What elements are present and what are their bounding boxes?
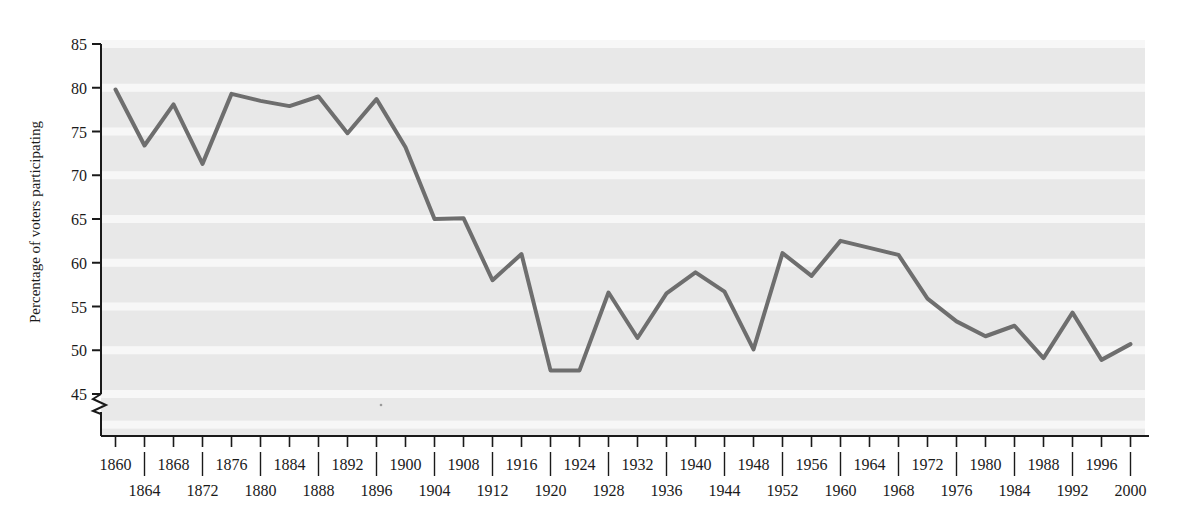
x-tick-label: 1960 — [825, 482, 857, 499]
y-axis-title: Percentage of voters participating — [27, 121, 43, 324]
chart-canvas: 455055606570758085 186018641868187218761… — [0, 0, 1182, 524]
x-tick-label: 1984 — [999, 482, 1031, 499]
gridline-band — [101, 215, 1145, 223]
gridline-band — [101, 303, 1145, 311]
x-tick-label: 1952 — [767, 482, 799, 499]
y-tick-label: 45 — [71, 386, 87, 403]
y-tick-label: 50 — [71, 342, 87, 359]
x-tick-label: 1944 — [709, 482, 741, 499]
x-tick-label: 1980 — [970, 456, 1002, 473]
x-tick-label: 1900 — [390, 456, 422, 473]
x-tick-label: 1892 — [332, 456, 364, 473]
gridline-band — [101, 346, 1145, 354]
gridline-band — [101, 84, 1145, 92]
gridline-band — [101, 421, 1145, 429]
x-tick-label: 1868 — [158, 456, 190, 473]
voter-turnout-line-chart: 455055606570758085 186018641868187218761… — [0, 0, 1182, 524]
x-tick-label: 1932 — [622, 456, 654, 473]
x-tick-label: 1948 — [738, 456, 770, 473]
y-tick-label: 60 — [71, 255, 87, 272]
x-tick-label: 1920 — [535, 482, 567, 499]
x-tick-label: 1912 — [477, 482, 509, 499]
y-tick-label: 70 — [71, 167, 87, 184]
x-tick-label: 1936 — [651, 482, 683, 499]
gridline-band — [101, 390, 1145, 398]
y-tick-label: 80 — [71, 80, 87, 97]
x-tick-label: 1904 — [419, 482, 451, 499]
gridline-band — [101, 40, 1145, 48]
x-tick-label: 1996 — [1086, 456, 1118, 473]
x-tick-label: 1972 — [912, 456, 944, 473]
gridline-band — [101, 171, 1145, 179]
x-tick-label: 1896 — [361, 482, 393, 499]
y-tick-label: 65 — [71, 211, 87, 228]
x-tick-label: 1988 — [1028, 456, 1060, 473]
y-tick-label: 55 — [71, 299, 87, 316]
x-tick-label: 1880 — [245, 482, 277, 499]
y-tick-label: 85 — [71, 36, 87, 53]
gridline-band — [101, 128, 1145, 136]
x-tick-label: 1876 — [216, 456, 248, 473]
x-tick-label: 1992 — [1057, 482, 1089, 499]
x-tick-label: 1928 — [593, 482, 625, 499]
gridline-band — [101, 259, 1145, 267]
x-tick-label: 1940 — [680, 456, 712, 473]
x-tick-label: 1908 — [448, 456, 480, 473]
scan-speck — [380, 404, 383, 407]
x-tick-label: 1956 — [796, 456, 828, 473]
x-tick-label: 1864 — [129, 482, 161, 499]
x-tick-label: 1976 — [941, 482, 973, 499]
x-tick-label: 1888 — [303, 482, 335, 499]
x-tick-label: 1872 — [187, 482, 219, 499]
axis-break-strip — [101, 400, 1145, 436]
x-tick-label: 1884 — [274, 456, 306, 473]
x-tick-label: 1968 — [883, 482, 915, 499]
x-tick-label: 2000 — [1115, 482, 1147, 499]
x-tick-label: 1924 — [564, 456, 596, 473]
x-tick-label: 1964 — [854, 456, 886, 473]
x-tick-label: 1860 — [100, 456, 132, 473]
x-tick-label: 1916 — [506, 456, 538, 473]
y-tick-label: 75 — [71, 124, 87, 141]
